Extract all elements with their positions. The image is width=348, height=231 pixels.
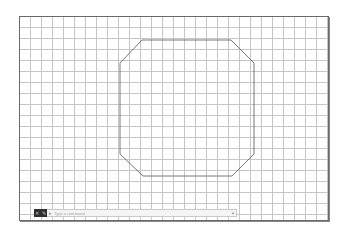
drawing-viewport[interactable]: [19, 16, 329, 221]
close-icon[interactable]: ✕: [35, 210, 39, 216]
command-input[interactable]: [52, 210, 232, 216]
command-line-buttons: ✕ ✎: [34, 209, 47, 217]
command-line: ✕ ✎ ▸ ▴: [34, 209, 237, 217]
recent-commands-dropdown-icon[interactable]: ▴: [232, 210, 234, 216]
octagon-shape[interactable]: [20, 17, 330, 222]
customize-icon[interactable]: ✎: [42, 210, 46, 216]
